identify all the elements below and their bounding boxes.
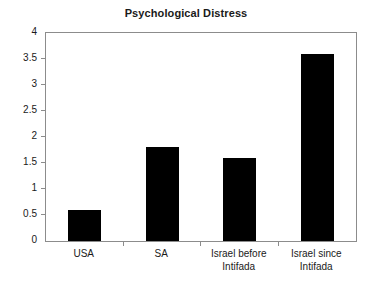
y-axis-tick-mark	[41, 188, 45, 189]
x-axis-tick-label: Israel beforeIntifada	[200, 248, 278, 273]
y-axis-tick-label: 0	[31, 233, 37, 246]
bar	[223, 158, 256, 241]
x-axis-tick-label-line: Israel since	[278, 248, 356, 261]
y-axis-tick-mark	[41, 58, 45, 59]
y-axis-tick-label: 2	[31, 129, 37, 142]
y-axis-tick-label: 2.5	[23, 103, 37, 116]
x-axis-tick-label: SA	[123, 248, 201, 261]
y-axis-tick-mark	[41, 84, 45, 85]
bar	[301, 54, 334, 241]
y-axis-tick-label: 3	[31, 77, 37, 90]
y-axis-tick-label: 3.5	[23, 51, 37, 64]
x-axis-tick-label-line: Intifada	[278, 261, 356, 274]
chart-figure: Psychological Distress 00.511.522.533.54…	[0, 0, 372, 284]
y-axis-tick-label: 4	[31, 25, 37, 38]
y-axis-tick-mark	[41, 110, 45, 111]
x-axis-tick-mark	[200, 241, 201, 246]
x-axis-tick-mark	[278, 241, 279, 246]
x-axis-tick-mark	[123, 241, 124, 246]
y-axis-tick-mark	[41, 136, 45, 137]
bar	[146, 147, 179, 241]
bar	[68, 210, 101, 241]
plot-area	[45, 32, 357, 242]
y-axis-tick-label: 1	[31, 181, 37, 194]
x-axis-tick-label-line: SA	[123, 248, 201, 261]
x-axis-tick-label-line: Intifada	[200, 261, 278, 274]
x-axis: USASAIsrael beforeIntifadaIsrael sinceIn…	[45, 240, 355, 284]
y-axis-tick-label: 0.5	[23, 207, 37, 220]
chart-title: Psychological Distress	[0, 6, 372, 20]
y-axis-tick-label: 1.5	[23, 155, 37, 168]
y-axis-tick-mark	[41, 214, 45, 215]
x-axis-tick-label-line: USA	[45, 248, 123, 261]
x-axis-tick-label: Israel sinceIntifada	[278, 248, 356, 273]
x-axis-tick-label-line: Israel before	[200, 248, 278, 261]
y-axis: 00.511.522.533.54	[0, 32, 45, 240]
x-axis-tick-label: USA	[45, 248, 123, 261]
y-axis-tick-mark	[41, 162, 45, 163]
